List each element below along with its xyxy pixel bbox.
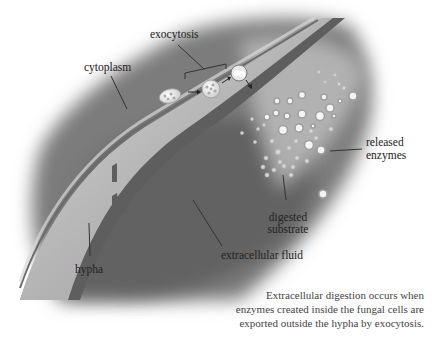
label-cytoplasm: cytoplasm	[84, 61, 131, 74]
label-released-enzymes: released enzymes	[366, 136, 406, 162]
diagram-canvas: exocytosis cytoplasm released enzymes di…	[0, 0, 446, 348]
label-exocytosis: exocytosis	[150, 28, 199, 41]
caption: Extracellular digestion occurs when enzy…	[184, 288, 424, 330]
caption-line-1: Extracellular digestion occurs when	[184, 288, 424, 302]
caption-line-2: enzymes created inside the fungal cells …	[184, 302, 424, 316]
label-released-enzymes-line2: enzymes	[366, 149, 406, 162]
label-digested-substrate: digested substrate	[263, 211, 313, 235]
label-extracellular-fluid: extracellular fluid	[221, 249, 303, 262]
caption-line-3: exported outside the hypha by exocytosis…	[184, 316, 424, 330]
label-hypha: hypha	[75, 263, 103, 276]
label-digested-substrate-line1: digested	[263, 211, 313, 223]
label-released-enzymes-line1: released	[366, 136, 406, 149]
label-digested-substrate-line2: substrate	[263, 223, 313, 235]
